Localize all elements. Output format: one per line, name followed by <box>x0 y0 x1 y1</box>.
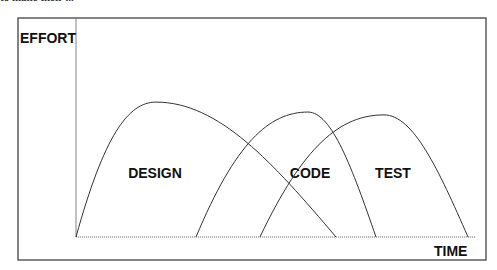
x-axis-label: TIME <box>434 243 467 259</box>
label-design: DESIGN <box>128 165 182 181</box>
y-axis-label: EFFORT <box>20 30 76 46</box>
label-test: TEST <box>375 165 411 181</box>
effort-time-diagram: EFFORT TIME DESIGNCODETEST <box>0 0 497 270</box>
curve-code <box>196 112 376 237</box>
